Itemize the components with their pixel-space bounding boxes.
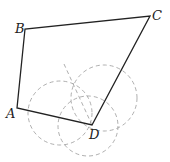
label-c: C [152, 8, 162, 23]
quadrilateral-abcd [17, 16, 150, 125]
label-d: D [88, 127, 100, 142]
construction-circle-2 [71, 65, 137, 131]
construction-line [64, 64, 92, 125]
label-b: B [14, 21, 25, 36]
label-a: A [5, 106, 15, 121]
construction-circle-3 [58, 96, 118, 156]
construction-circles [28, 64, 137, 156]
geometry-diagram: B C A D [0, 0, 170, 162]
